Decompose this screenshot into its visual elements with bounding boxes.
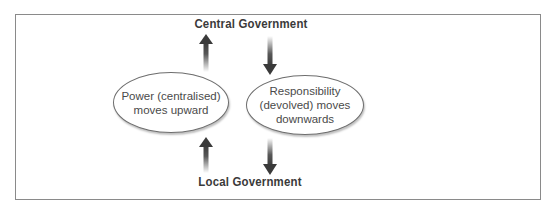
power-node-text: Power (centralised) moves upward (121, 89, 220, 117)
arrow-up-icon (199, 34, 213, 72)
arrow-down-icon (263, 36, 277, 75)
responsibility-devolved-node: Responsibility (devolved) moves downward… (246, 75, 364, 135)
power-centralised-node: Power (centralised) moves upward (113, 72, 229, 133)
responsibility-node-text: Responsibility (devolved) moves downward… (260, 84, 351, 126)
arrow-down-icon (263, 138, 277, 175)
arrow-up-icon (199, 137, 213, 173)
